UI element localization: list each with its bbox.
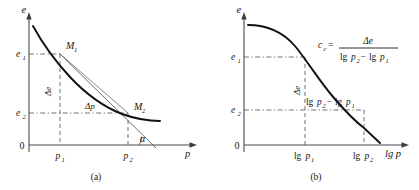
- panel-a-point-m2-sub: 2: [142, 107, 146, 114]
- panel-b-x-axis-label: lg p: [385, 148, 401, 159]
- panel-a-x-tick-p2-sub: 2: [130, 156, 134, 163]
- panel-b-difference-first-base: p: [316, 97, 322, 107]
- panel-b-y-axis-label: e: [237, 4, 242, 15]
- panel-b-x-tick-lgp1: lg p 1: [294, 151, 314, 163]
- panel-b-formula: c c = Δe lg p 2 − lg p 1: [318, 36, 398, 64]
- panel-a-point-label-m2: M 2: [133, 101, 146, 114]
- panel-b-x-tick-lgp2-base: p: [364, 151, 370, 161]
- panel-b-formula-denom-first-prefix: lg: [340, 52, 348, 62]
- panel-a-y-tick-e1-sub: 1: [23, 54, 26, 61]
- panel-b-formula-denom-second-base: p: [379, 52, 385, 62]
- panel-b-x-axis-arrow: [402, 142, 410, 147]
- panel-a-delta-p-label: Δp: [84, 101, 95, 111]
- panel-b-x-tick-lgp2-prefix: lg: [353, 151, 361, 161]
- panel-b-formula-lhs-sub: c: [324, 45, 327, 52]
- panel-b-difference-second-prefix: lg: [335, 97, 343, 107]
- panel-a-x-tick-p1-base: p: [55, 151, 61, 161]
- panel-a-x-tick-p2: p 2: [123, 151, 134, 163]
- panel-a-x-axis-label: p: [184, 148, 190, 159]
- panel-a-y-tick-e2-base: e: [16, 108, 20, 118]
- panel-a-x-tick-p2-base: p: [123, 151, 129, 161]
- panel-b-x-tick-lgp2: lg p 2: [353, 151, 374, 163]
- panel-b-y-tick-e2-base: e: [231, 105, 235, 115]
- panel-a: e p 0 e 1 e 2 p 1 p: [16, 4, 197, 183]
- panel-b-y-axis-arrow: [241, 12, 246, 20]
- panel-b-formula-lhs-base: c: [318, 40, 323, 50]
- panel-a-y-tick-e2-sub: 2: [23, 113, 27, 120]
- panel-b-difference-second-sub: 1: [352, 102, 355, 109]
- panel-b-formula-denom-operator: −: [361, 52, 366, 62]
- panel-b-compression-curve: [248, 25, 380, 143]
- panel-a-delta-e-label: Δe: [43, 87, 53, 97]
- panel-b-difference-label: lg p 2 − lg p 1: [306, 97, 355, 109]
- panel-b-x-tick-lgp1-prefix: lg: [294, 151, 302, 161]
- panel-a-y-tick-e2: e 2: [16, 108, 27, 120]
- panel-b-x-tick-lgp1-sub: 1: [311, 156, 314, 163]
- panel-a-x-tick-p1: p 1: [55, 151, 65, 163]
- figure-container: e p 0 e 1 e 2 p 1 p: [0, 0, 419, 190]
- panel-b-y-tick-e2-sub: 2: [238, 110, 242, 117]
- panel-b-caption: (b): [310, 172, 321, 183]
- panel-b-formula-denom-first-base: p: [350, 52, 356, 62]
- panel-b: e lg p 0 e 1 e 2 lg p 1 lg p 2: [231, 4, 409, 183]
- panel-b-formula-equals: =: [328, 40, 333, 50]
- panel-b-x-tick-lgp2-sub: 2: [370, 156, 374, 163]
- panel-b-formula-denom-second-prefix: lg: [369, 52, 377, 62]
- panel-a-y-axis-label: e: [22, 4, 27, 15]
- panel-a-angle-label: α: [140, 133, 146, 144]
- panel-b-y-tick-e2: e 2: [231, 105, 242, 117]
- panel-b-x-tick-lgp1-base: p: [305, 151, 311, 161]
- panel-a-point-label-m1: M 1: [65, 40, 77, 53]
- panel-a-point-m1-sub: 1: [74, 46, 77, 53]
- panel-b-y-tick-e1: e 1: [231, 52, 241, 64]
- panel-b-difference-second-base: p: [345, 97, 351, 107]
- panel-b-delta-e-label: Δe: [292, 86, 302, 96]
- panel-a-y-tick-e1: e 1: [16, 49, 26, 61]
- compression-curves-figure: e p 0 e 1 e 2 p 1 p: [0, 0, 419, 190]
- panel-a-x-tick-p1-sub: 1: [62, 156, 65, 163]
- panel-b-formula-numerator: Δe: [362, 36, 373, 46]
- panel-a-y-axis-arrow: [26, 12, 31, 20]
- panel-a-caption: (a): [91, 172, 102, 183]
- panel-b-formula-denom-second-sub: 1: [386, 57, 389, 64]
- panel-a-y-tick-e1-base: e: [16, 49, 20, 59]
- panel-b-origin-label: 0: [235, 140, 240, 151]
- panel-b-difference-first-prefix: lg: [306, 97, 314, 107]
- panel-a-origin-label: 0: [20, 140, 25, 151]
- panel-b-y-tick-e1-sub: 1: [238, 57, 241, 64]
- panel-a-x-axis-arrow: [190, 142, 198, 147]
- panel-b-y-tick-e1-base: e: [231, 52, 235, 62]
- panel-b-difference-operator: −: [327, 97, 332, 107]
